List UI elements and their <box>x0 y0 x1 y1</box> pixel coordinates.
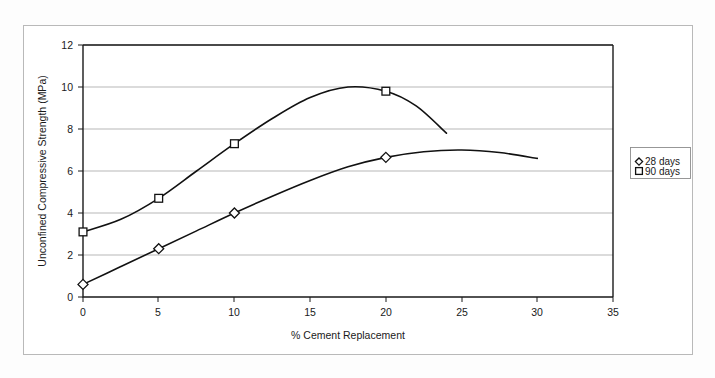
legend-label: 90 days <box>645 166 680 177</box>
x-tick-label: 25 <box>456 306 468 318</box>
y-tick-marks <box>78 45 83 297</box>
data-point-square <box>79 228 87 236</box>
gridlines <box>83 45 613 255</box>
y-tick-label: 0 <box>67 291 73 303</box>
y-axis-title: Unconfined Compressive Strength (MPa) <box>36 75 48 266</box>
y-tick-label: 2 <box>67 249 73 261</box>
y-tick-label: 4 <box>67 207 73 219</box>
data-point-diamond <box>154 244 164 254</box>
x-tick-label: 10 <box>228 306 240 318</box>
y-tick-label: 6 <box>67 165 73 177</box>
data-point-diamond <box>229 208 239 218</box>
x-tick-label: 15 <box>304 306 316 318</box>
chart-legend: 28 days 90 days <box>631 148 691 179</box>
data-point-square <box>231 140 239 148</box>
x-tick-label: 0 <box>80 306 86 318</box>
y-tick-label: 12 <box>61 39 73 51</box>
x-tick-label: 35 <box>607 306 619 318</box>
chart-figure: 12 10 8 6 4 2 0 0 5 10 15 20 25 30 35 % … <box>0 0 715 378</box>
series-line-28-days <box>83 150 537 284</box>
line-chart: 12 10 8 6 4 2 0 0 5 10 15 20 25 30 35 % … <box>0 0 715 378</box>
series-line-90-days <box>83 87 446 232</box>
data-point-diamond <box>78 279 88 289</box>
y-tick-label: 8 <box>67 123 73 135</box>
square-icon <box>636 168 643 175</box>
data-point-diamond <box>381 152 391 162</box>
series-markers-28-days <box>78 152 391 289</box>
data-point-square <box>155 194 163 202</box>
x-tick-labels: 0 5 10 15 20 25 30 35 <box>80 306 619 318</box>
x-tick-label: 20 <box>380 306 392 318</box>
x-tick-label: 5 <box>155 306 161 318</box>
data-point-square <box>382 87 390 95</box>
x-axis-title: % Cement Replacement <box>291 329 405 341</box>
x-tick-marks <box>83 297 613 302</box>
y-tick-label: 10 <box>61 81 73 93</box>
y-tick-labels: 12 10 8 6 4 2 0 <box>61 39 73 303</box>
x-tick-label: 30 <box>531 306 543 318</box>
